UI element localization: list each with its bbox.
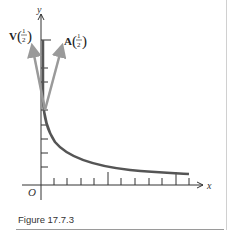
svg-text:): ) xyxy=(82,33,87,50)
x-axis-label: x xyxy=(206,180,212,191)
svg-text:A: A xyxy=(64,35,72,47)
svg-text:): ) xyxy=(27,28,32,45)
svg-text:2: 2 xyxy=(77,41,81,49)
figure-diagram: y x O V ( 1 2 ) A ( 1 2 ) xyxy=(0,0,232,241)
acceleration-label: A ( 1 2 ) xyxy=(64,32,87,50)
svg-text:1: 1 xyxy=(22,27,26,35)
curve xyxy=(43,40,189,174)
svg-text:2: 2 xyxy=(22,36,26,44)
y-axis-label: y xyxy=(36,4,42,15)
svg-text:1: 1 xyxy=(77,32,81,40)
origin-label: O xyxy=(28,186,36,198)
svg-text:V: V xyxy=(9,30,17,42)
right-border xyxy=(226,0,227,230)
velocity-label: V ( 1 2 ) xyxy=(9,27,32,45)
figure-caption: Figure 17.7.3 xyxy=(18,214,74,225)
acceleration-vector xyxy=(45,50,61,110)
bottom-rule xyxy=(16,229,224,230)
